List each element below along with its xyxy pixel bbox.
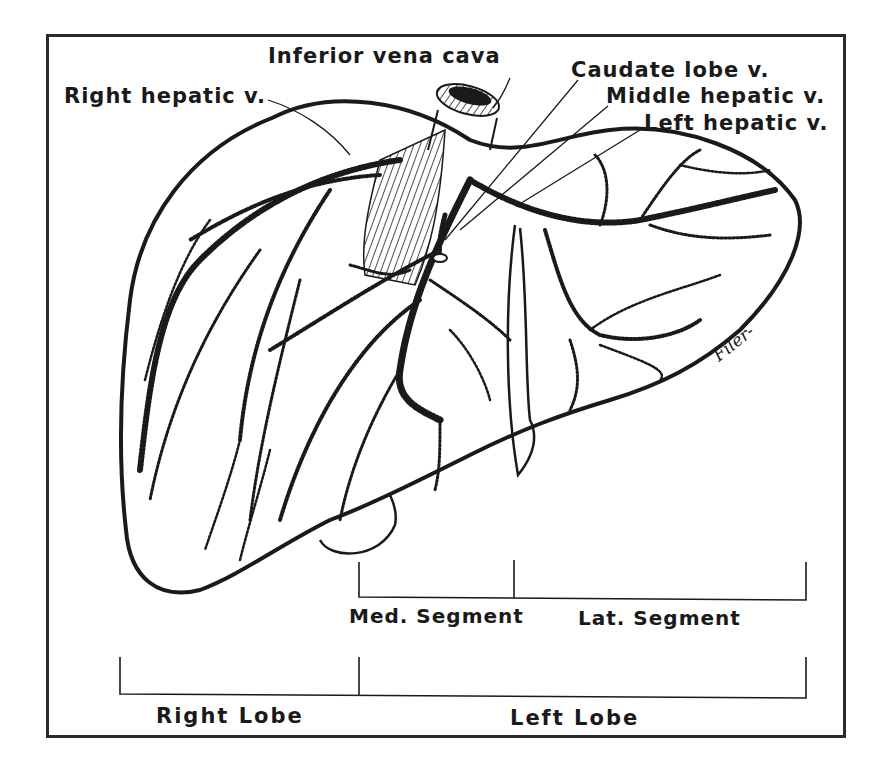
bracket-lobes xyxy=(120,657,806,698)
label-left-hepatic-v: Left hepatic v. xyxy=(644,111,828,135)
label-left-lobe: Left Lobe xyxy=(510,706,639,730)
left-hepatic-vein xyxy=(470,180,775,223)
label-inferior-vena-cava: Inferior vena cava xyxy=(268,44,501,68)
label-right-hepatic-v: Right hepatic v. xyxy=(64,84,266,108)
label-middle-hepatic-v: Middle hepatic v. xyxy=(606,84,825,108)
label-caudate-lobe-v: Caudate lobe v. xyxy=(571,58,770,82)
liver-outline xyxy=(121,101,800,592)
hepatic-veins xyxy=(140,150,775,560)
right-hepatic-vein xyxy=(140,160,400,470)
gallbladder-outline xyxy=(320,495,396,554)
label-medial-segment: Med. Segment xyxy=(349,604,524,628)
leader-right-hepatic xyxy=(268,100,350,155)
leader-left-hepatic xyxy=(518,130,640,205)
label-lateral-segment: Lat. Segment xyxy=(578,606,741,630)
label-right-lobe: Right Lobe xyxy=(156,704,304,728)
ligamentum-teres xyxy=(508,225,534,475)
bracket-segments xyxy=(359,562,806,600)
